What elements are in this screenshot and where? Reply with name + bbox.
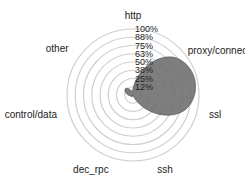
category-label: control/data (5, 109, 58, 120)
category-label: dec_rpc (73, 164, 109, 175)
category-label: ssl (209, 109, 221, 120)
radar-chart: 12%25%38%50%63%75%88%100% httpproxy/conn… (0, 0, 245, 189)
category-label: http (125, 10, 142, 21)
category-label: ssh (157, 164, 173, 175)
radial-tick-label: 100% (135, 24, 158, 34)
category-label: proxy/connect (188, 45, 245, 56)
category-label: other (46, 43, 69, 54)
